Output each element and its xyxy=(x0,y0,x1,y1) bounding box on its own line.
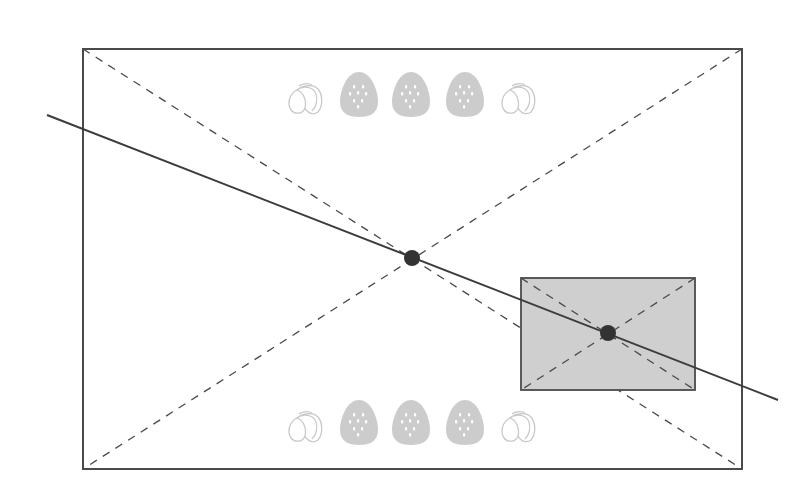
strawberry-icon xyxy=(392,400,430,445)
swirl-icon xyxy=(502,84,535,114)
strawberry-icon xyxy=(446,400,484,445)
strawberry-icon xyxy=(392,72,430,117)
diagram-canvas: .straw-body{fill:#cccccc;}.seeds rect{fi… xyxy=(0,0,811,502)
inner-center-point xyxy=(600,325,616,341)
swirl-icon xyxy=(502,412,535,442)
composition-diagram: .straw-body{fill:#cccccc;}.seeds rect{fi… xyxy=(0,0,811,502)
outer-center-point xyxy=(404,250,420,266)
strawberry-icon xyxy=(446,72,484,117)
strawberry-icon xyxy=(340,400,378,445)
strawberry-icon xyxy=(340,72,378,117)
icon-row-bottom xyxy=(289,400,535,445)
swirl-icon xyxy=(289,412,322,442)
swirl-icon xyxy=(289,84,322,114)
icon-row-top xyxy=(289,72,535,117)
